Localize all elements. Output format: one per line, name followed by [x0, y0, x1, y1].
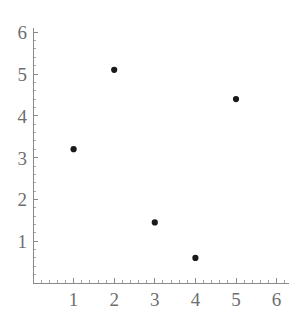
x-axis-major-tick-group [74, 278, 277, 283]
data-point [233, 96, 239, 102]
x-axis-tick-label: 4 [191, 290, 201, 309]
y-axis-tick-label: 5 [18, 65, 28, 84]
scatter-plot-figure: 123456 123456 [0, 0, 297, 317]
data-point [152, 219, 158, 225]
y-axis-tick-label: 2 [18, 190, 28, 209]
y-axis-tick-label: 3 [18, 148, 28, 167]
y-axis-tick-label: 6 [18, 23, 28, 42]
y-axis-tick-label: 4 [18, 106, 28, 125]
data-point [192, 255, 198, 261]
x-axis-tick-label: 6 [272, 290, 282, 309]
plot-canvas [0, 0, 297, 317]
data-point [71, 146, 77, 152]
x-axis-tick-label: 1 [69, 290, 79, 309]
y-axis-major-tick-group [33, 32, 38, 241]
x-axis-tick-label: 5 [231, 290, 241, 309]
y-axis-tick-label: 1 [18, 232, 28, 251]
x-axis-tick-label: 3 [150, 290, 160, 309]
data-point-group [71, 67, 240, 261]
data-point [111, 67, 117, 73]
x-axis-tick-label: 2 [109, 290, 119, 309]
